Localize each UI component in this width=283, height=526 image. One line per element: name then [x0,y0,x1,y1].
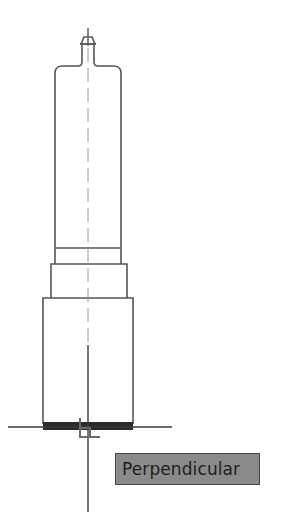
drawing-canvas[interactable] [0,0,283,526]
osnap-tooltip: Perpendicular [115,453,260,485]
section-2 [51,264,127,298]
